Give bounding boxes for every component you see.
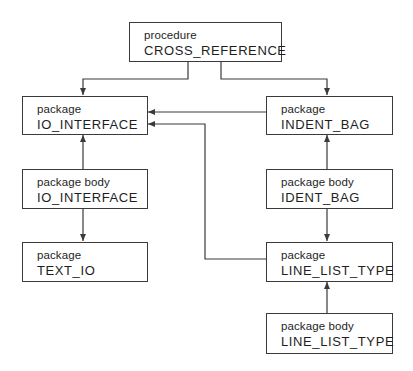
node-name: IO_INTERFACE: [37, 189, 147, 206]
node-name: TEXT_IO: [37, 262, 147, 279]
dependency-diagram: procedure CROSS_REFERENCE package IO_INT…: [0, 0, 413, 371]
node-io-interface-package: package IO_INTERFACE: [22, 96, 148, 135]
edge-crossref-to-indentbag: [221, 61, 327, 95]
node-text-io-package: package TEXT_IO: [22, 242, 148, 282]
node-name: LINE_LIST_TYPE: [281, 333, 392, 350]
edge-crossref-to-iointerface: [83, 61, 188, 95]
node-line-list-type-body: package body LINE_LIST_TYPE: [266, 313, 393, 354]
node-name: CROSS_REFERENCE: [144, 42, 281, 59]
node-line-list-type-package: package LINE_LIST_TYPE: [266, 242, 393, 282]
node-kind: package body: [281, 175, 392, 189]
node-kind: procedure: [144, 28, 281, 42]
node-kind: package: [37, 102, 147, 116]
node-kind: package: [281, 102, 392, 116]
node-io-interface-body: package body IO_INTERFACE: [22, 169, 148, 209]
node-name: LINE_LIST_TYPE: [281, 262, 392, 279]
node-kind: package: [281, 248, 392, 262]
edge-linelisttype-to-iointerface: [148, 124, 266, 259]
node-kind: package body: [281, 319, 392, 333]
node-cross-reference: procedure CROSS_REFERENCE: [129, 22, 282, 62]
node-name: INDENT_BAG: [281, 116, 392, 133]
node-name: IDENT_BAG: [281, 189, 392, 206]
node-name: IO_INTERFACE: [37, 116, 147, 133]
node-indent-bag-package: package INDENT_BAG: [266, 96, 393, 135]
node-ident-bag-body: package body IDENT_BAG: [266, 169, 393, 209]
node-kind: package body: [37, 175, 147, 189]
node-kind: package: [37, 248, 147, 262]
